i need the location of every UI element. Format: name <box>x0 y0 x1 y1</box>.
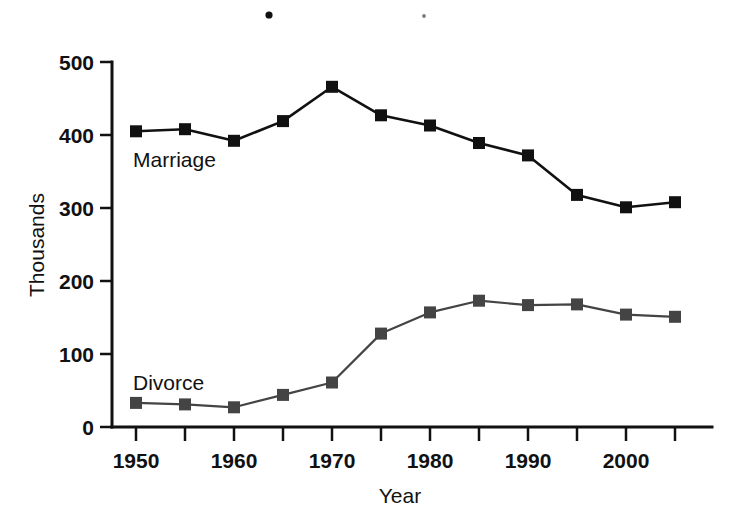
series-line <box>136 87 675 208</box>
y-tick-label: 500 <box>59 51 94 74</box>
series-divorce <box>130 295 681 414</box>
data-point-marker <box>571 298 583 310</box>
data-point-marker <box>620 201 632 213</box>
marriage-divorce-line-chart: 500 400 300 200 100 0 1950 1960 1970 <box>0 0 741 517</box>
data-point-marker <box>473 137 485 149</box>
data-point-marker <box>522 149 534 161</box>
x-tick-label: 1970 <box>309 449 356 472</box>
y-tick-label: 200 <box>59 270 94 293</box>
x-tick-label: 1990 <box>505 449 552 472</box>
data-point-marker <box>130 125 142 137</box>
data-point-marker <box>375 328 387 340</box>
data-point-marker <box>326 81 338 93</box>
data-point-marker <box>277 115 289 127</box>
chart-container: 500 400 300 200 100 0 1950 1960 1970 <box>0 0 741 517</box>
data-point-marker <box>179 123 191 135</box>
y-axis-tick-labels: 500 400 300 200 100 0 <box>59 51 94 439</box>
y-axis-ticks <box>100 62 112 427</box>
series-annotation-divorce: Divorce <box>133 371 204 394</box>
data-point-marker <box>228 135 240 147</box>
data-series-layer <box>130 81 681 414</box>
data-point-marker <box>326 377 338 389</box>
data-point-marker <box>571 189 583 201</box>
data-point-marker <box>424 306 436 318</box>
x-tick-label: 2000 <box>603 449 650 472</box>
x-tick-label: 1950 <box>113 449 160 472</box>
y-axis-title: Thousands <box>25 193 48 297</box>
data-point-marker <box>473 295 485 307</box>
data-point-marker <box>375 109 387 121</box>
data-point-marker <box>277 389 289 401</box>
x-tick-label: 1960 <box>211 449 258 472</box>
data-point-marker <box>669 311 681 323</box>
y-tick-label: 400 <box>59 124 94 147</box>
y-tick-label: 300 <box>59 197 94 220</box>
y-tick-label: 0 <box>82 416 94 439</box>
series-annotation-marriage: Marriage <box>133 148 216 171</box>
x-axis-tick-labels: 1950 1960 1970 1980 1990 2000 <box>113 449 650 472</box>
y-tick-label: 100 <box>59 343 94 366</box>
data-point-marker <box>130 397 142 409</box>
x-tick-label: 1980 <box>407 449 454 472</box>
data-point-marker <box>424 120 436 132</box>
x-axis-ticks <box>136 427 675 441</box>
scan-speck-icon <box>265 11 272 18</box>
data-point-marker <box>228 401 240 413</box>
data-point-marker <box>179 398 191 410</box>
scan-speck-secondary-icon <box>422 14 426 18</box>
series-line <box>136 301 675 408</box>
data-point-marker <box>522 299 534 311</box>
data-point-marker <box>620 309 632 321</box>
x-axis-title: Year <box>379 484 421 507</box>
data-point-marker <box>669 196 681 208</box>
